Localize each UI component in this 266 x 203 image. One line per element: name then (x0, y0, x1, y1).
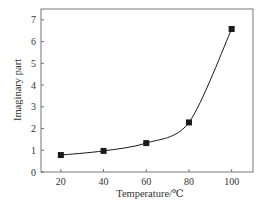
x-tick-label: 100 (224, 176, 239, 187)
y-tick-label: 2 (31, 123, 36, 134)
square-marker (186, 119, 192, 125)
x-tick-label: 20 (56, 176, 66, 187)
x-tick-label: 80 (184, 176, 194, 187)
data-line (61, 29, 232, 155)
y-tick-label: 7 (31, 14, 36, 25)
square-marker (229, 26, 235, 32)
x-axis-label: Temperature/℃ (116, 188, 184, 199)
y-tick-label: 6 (31, 36, 36, 47)
y-tick-label: 3 (31, 101, 36, 112)
y-axis-ticks: 01234567 (31, 14, 44, 177)
y-axis-label: Imaginary part (12, 59, 23, 121)
plot-frame (41, 9, 253, 172)
x-tick-label: 60 (141, 176, 151, 187)
line-chart: 01234567 20406080100 Temperature/℃ Imagi… (0, 0, 266, 203)
square-marker (101, 148, 107, 154)
x-tick-label: 40 (99, 176, 109, 187)
y-tick-label: 0 (31, 167, 36, 178)
square-marker (143, 140, 149, 146)
data-markers (58, 26, 235, 158)
y-tick-label: 1 (31, 145, 36, 156)
square-marker (58, 152, 64, 158)
y-tick-label: 4 (31, 80, 36, 91)
y-tick-label: 5 (31, 58, 36, 69)
